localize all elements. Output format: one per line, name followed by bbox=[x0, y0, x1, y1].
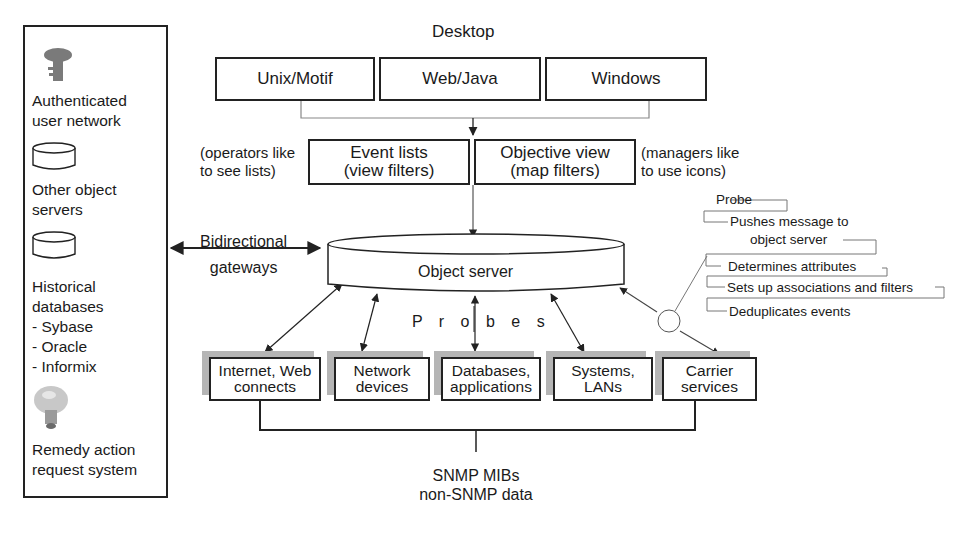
client-label: Unix/Motif bbox=[257, 70, 333, 88]
source-databases-applications: Databases, applications bbox=[441, 357, 541, 401]
source-systems-lans: Systems, LANs bbox=[553, 357, 653, 401]
side-item-historical-databases: Historical databases - Sybase - Oracle -… bbox=[32, 277, 104, 377]
desktop-title: Desktop bbox=[432, 22, 494, 42]
event-lists-box: Event lists (view filters) bbox=[308, 139, 470, 185]
bidirectional-gateways-label: Bidirectional gateways bbox=[200, 229, 287, 281]
managers-note: (managers like to use icons) bbox=[641, 144, 739, 180]
client-label: Windows bbox=[592, 70, 661, 88]
client-unix-motif: Unix/Motif bbox=[215, 57, 375, 101]
client-windows: Windows bbox=[545, 57, 707, 101]
callout-object-server: object server bbox=[750, 232, 827, 247]
callout-pushes: Pushes message to bbox=[730, 214, 849, 229]
callout-deduplicates-events: Deduplicates events bbox=[729, 304, 851, 319]
probes-label: P r o b e s bbox=[412, 313, 551, 331]
side-item-other-object-servers: Other object servers bbox=[32, 180, 116, 220]
client-web-java: Web/Java bbox=[379, 57, 541, 101]
callout-sets-up-associations: Sets up associations and filters bbox=[727, 280, 913, 295]
database-icon bbox=[31, 141, 77, 172]
callout-probe: Probe bbox=[716, 192, 752, 207]
source-internet-web: Internet, Web connects bbox=[209, 357, 321, 401]
source-network-devices: Network devices bbox=[334, 357, 430, 401]
object-server-label: Object server bbox=[418, 263, 513, 281]
side-item-remedy: Remedy action request system bbox=[32, 440, 137, 480]
operators-note: (operators like to see lists) bbox=[200, 144, 295, 180]
callout-determines-attributes: Determines attributes bbox=[728, 259, 856, 274]
client-label: Web/Java bbox=[422, 70, 497, 88]
lightbulb-icon bbox=[32, 386, 74, 432]
source-carrier-services: Carrier services bbox=[662, 357, 757, 401]
side-item-authenticated: Authenticated user network bbox=[32, 91, 127, 131]
objective-view-box: Objective view (map filters) bbox=[474, 139, 636, 185]
key-icon bbox=[41, 47, 75, 83]
database-icon bbox=[31, 230, 77, 261]
